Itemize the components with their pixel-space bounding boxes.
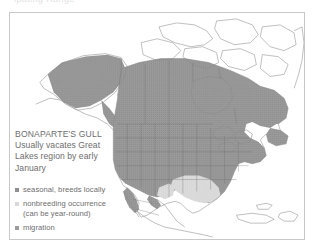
legend-item-nonbreeding-occurrence: nonbreeding occurrence (can be year-roun… bbox=[15, 199, 119, 218]
legend-label-nonbreeding-line1: nonbreeding occurrence bbox=[23, 199, 106, 208]
square-swatch-icon bbox=[15, 226, 19, 230]
cut-off-heading: ipating Range bbox=[14, 0, 75, 4]
species-caption: BONAPARTE'S GULL Usually vacates Great L… bbox=[15, 129, 113, 174]
caption-line-3: January bbox=[15, 163, 113, 174]
square-swatch-icon bbox=[15, 188, 19, 192]
square-swatch-icon bbox=[15, 202, 19, 206]
legend-label-migration: migration bbox=[23, 223, 55, 232]
legend-label-seasonal: seasonal, breeds locally bbox=[23, 185, 105, 194]
species-name: BONAPARTE'S GULL bbox=[15, 129, 113, 140]
caption-line-2: Lakes region by early bbox=[15, 151, 113, 162]
range-map-figure: BONAPARTE'S GULL Usually vacates Great L… bbox=[9, 12, 305, 240]
legend-item-seasonal-breeds-locally: seasonal, breeds locally bbox=[15, 185, 119, 194]
legend-item-migration: migration bbox=[15, 223, 119, 232]
map-legend: seasonal, breeds locally nonbreeding occ… bbox=[15, 185, 119, 238]
legend-label-nonbreeding-line2: (can be year-round) bbox=[23, 209, 91, 218]
caption-line-1: Usually vacates Great bbox=[15, 140, 113, 151]
legend-label-nonbreeding: nonbreeding occurrence (can be year-roun… bbox=[23, 199, 106, 218]
